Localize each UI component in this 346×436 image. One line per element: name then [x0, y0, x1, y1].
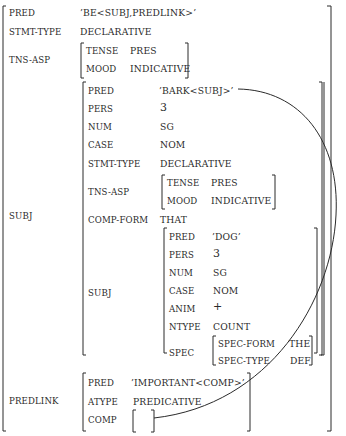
- subj-left-bracket: [83, 82, 86, 355]
- dog-pred-label: PRED: [169, 232, 195, 242]
- subj-stmt-type-value: DECLARATIVE: [160, 159, 232, 169]
- inner-subj-label: SUBJ: [88, 288, 112, 298]
- dog-spec-label: SPEC: [169, 348, 194, 358]
- predlink-left-bracket: [83, 373, 86, 431]
- subj-tns-asp-label: TNS-ASP: [88, 187, 129, 197]
- outer-predlink-label: PREDLINK: [9, 396, 59, 406]
- outer-left-bracket: [3, 6, 6, 431]
- comp-left-bracket: [133, 410, 136, 432]
- outer-tense-label: TENSE: [86, 46, 118, 56]
- subj-pred-label: PRED: [88, 86, 114, 96]
- predlink-pred-value: ’IMPORTANT<COMP>’: [131, 378, 245, 388]
- dog-pred-value: ’DOG’: [212, 232, 241, 242]
- subj-tense-label: TENSE: [167, 178, 199, 188]
- subj-tense-value: PRES: [211, 178, 238, 188]
- dog-num-value: SG: [213, 268, 227, 278]
- subj-right-bracket: [319, 82, 322, 355]
- predlink-atype-value: PREDICATIVE: [133, 397, 202, 407]
- spec-form-value: THE: [289, 339, 310, 349]
- dog-right-bracket: [314, 228, 317, 353]
- spec-type-label: SPEC-TYPE: [218, 356, 270, 366]
- subj-num-value: SG: [160, 122, 174, 132]
- subj-comp-form-label: COMP-FORM: [88, 215, 148, 225]
- spec-form-label: SPEC-FORM: [218, 339, 275, 349]
- outer-pred-label: PRED: [9, 8, 35, 18]
- outer-mood-value: INDICATIVE: [130, 64, 190, 74]
- outer-stmt-type-value: DECLARATIVE: [80, 27, 152, 37]
- outer-right-bracket: [327, 6, 331, 431]
- subj-mood-value: INDICATIVE: [211, 196, 271, 206]
- dog-case-label: CASE: [169, 286, 195, 296]
- predlink-pred-label: PRED: [88, 378, 114, 388]
- subj-case-label: CASE: [88, 140, 114, 150]
- dog-pers-value: 3: [213, 249, 220, 259]
- comp-right-bracket: [151, 410, 154, 432]
- subj-comp-form-value: THAT: [160, 215, 187, 225]
- spec-type-value: DEF: [290, 356, 311, 366]
- dog-case-value: NOM: [213, 286, 238, 296]
- subj-pers-value: 3: [160, 103, 167, 113]
- outer-mood-label: MOOD: [86, 64, 116, 74]
- dog-ntype-label: NTYPE: [169, 322, 201, 332]
- outer-stmt-type-label: STMT-TYPE: [9, 27, 61, 37]
- subj-mood-label: MOOD: [167, 196, 197, 206]
- dog-num-label: NUM: [169, 268, 193, 278]
- predlink-comp-label: COMP: [88, 415, 117, 425]
- subj-pred-value: ’BARK<SUBJ>’: [159, 86, 234, 96]
- dog-anim-value: +: [213, 302, 222, 312]
- subj-pers-label: PERS: [88, 104, 113, 114]
- dog-ntype-value: COUNT: [213, 322, 250, 332]
- outer-subj-label: SUBJ: [9, 211, 33, 221]
- subj-num-label: NUM: [88, 122, 112, 132]
- dog-anim-label: ANIM: [169, 304, 196, 314]
- subj-case-value: NOM: [160, 140, 185, 150]
- dog-left-bracket: [164, 228, 167, 353]
- outer-tns-asp-label: TNS-ASP: [9, 55, 50, 65]
- outer-tense-value: PRES: [130, 46, 157, 56]
- dog-pers-label: PERS: [169, 250, 194, 260]
- outer-pred-value: ’BE<SUBJ,PREDLINK>’: [80, 8, 196, 18]
- predlink-atype-label: ATYPE: [88, 397, 118, 407]
- subj-stmt-type-label: STMT-TYPE: [88, 159, 140, 169]
